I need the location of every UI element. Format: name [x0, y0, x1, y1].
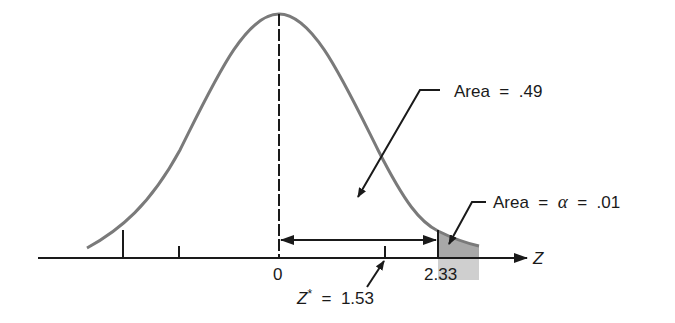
z-star-label: Z* = 1.53: [296, 287, 374, 308]
tick-label-zero: 0: [273, 265, 282, 284]
normal-curve: [87, 14, 479, 248]
area-tail-label: Area = α = .01: [493, 191, 620, 212]
tick-label-critical: 2.33: [424, 265, 457, 284]
axis-label-z: Z: [532, 249, 544, 268]
z-star-leader: [367, 261, 384, 287]
area-body-label: Area = .49: [454, 82, 542, 101]
area-body-leader: [358, 90, 440, 197]
normal-curve-diagram: Area = .49 Area = α = .01 0 2.33 Z Z* = …: [0, 0, 675, 323]
